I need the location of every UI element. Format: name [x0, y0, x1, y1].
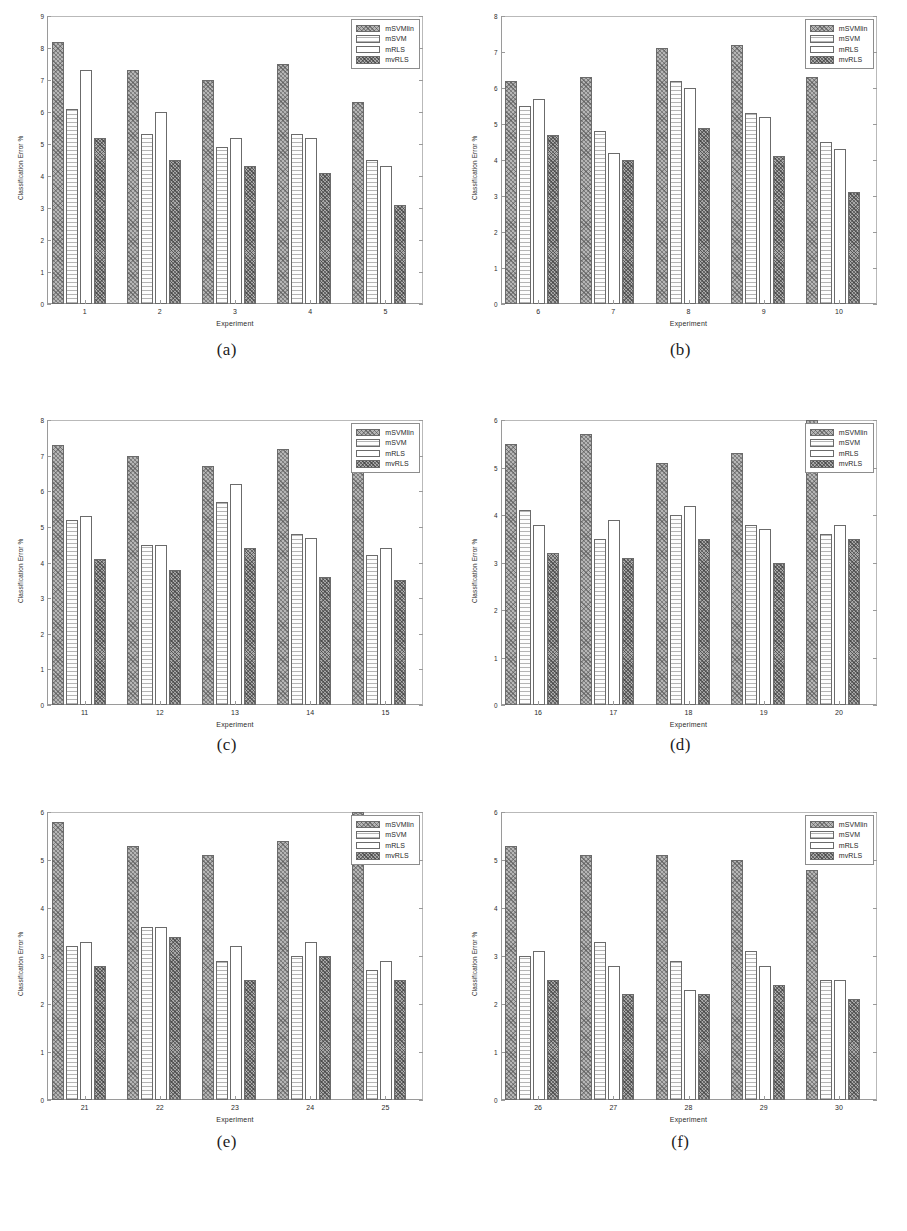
bar-mSVMlin-3: [202, 80, 214, 304]
y-tick-label: 4: [40, 173, 47, 180]
x-tick-label: 16: [534, 709, 542, 716]
y-tick-mark: [47, 598, 51, 599]
y-tick-mark-right: [419, 176, 423, 177]
panel-caption: (b): [454, 340, 907, 360]
bar-mSVM-4: [291, 134, 303, 304]
chart-panel-e: 01234562122232425ExperimentClassificatio…: [0, 800, 454, 1231]
legend-item-mRLS: mRLS: [810, 448, 868, 459]
legend-label: mvRLS: [385, 852, 408, 859]
bar-mSVMlin-18: [656, 463, 668, 705]
legend-swatch-mSVM-icon: [810, 35, 834, 43]
legend-item-mRLS: mRLS: [810, 44, 868, 55]
y-tick-mark-right: [873, 16, 877, 17]
y-tick-mark: [501, 52, 505, 53]
legend-item-mSVMlin: mSVMlin: [356, 427, 414, 438]
bar-mSVM-30: [820, 980, 832, 1100]
legend-item-mRLS: mRLS: [356, 44, 414, 55]
legend-label: mvRLS: [839, 852, 862, 859]
bar-mSVMlin-24: [277, 841, 289, 1100]
y-tick-mark-right: [873, 420, 877, 421]
x-tick-mark: [160, 300, 161, 304]
y-tick-mark-right: [419, 1004, 423, 1005]
bar-mSVM-5: [366, 160, 378, 304]
y-tick-mark: [501, 304, 505, 305]
x-tick-label: 4: [308, 308, 312, 315]
y-tick-mark-right: [873, 956, 877, 957]
panel-caption: (e): [0, 1132, 454, 1152]
y-axis-label: Classification Error %: [471, 136, 478, 200]
chart-panel-c: 0123456781112131415ExperimentClassificat…: [0, 410, 454, 800]
bar-mRLS-30: [834, 980, 846, 1100]
bar-mSVMlin-7: [580, 77, 592, 304]
y-tick-label: 1: [40, 1049, 47, 1056]
bar-mSVMlin-8: [656, 48, 668, 304]
y-tick-mark: [501, 1100, 505, 1101]
legend-label: mRLS: [385, 842, 405, 849]
legend-swatch-mvRLS-icon: [356, 460, 380, 468]
y-tick-mark: [47, 420, 51, 421]
x-tick-mark: [538, 1096, 539, 1100]
legend-item-mSVM: mSVM: [356, 438, 414, 449]
y-tick-mark-right: [873, 610, 877, 611]
y-tick-mark: [501, 232, 505, 233]
y-tick-mark: [501, 705, 505, 706]
x-tick-mark: [538, 300, 539, 304]
x-tick-mark: [385, 300, 386, 304]
chart-panel-f: 01234562627282930ExperimentClassificatio…: [454, 800, 907, 1231]
x-axis-label: Experiment: [501, 320, 877, 327]
y-tick-label: 2: [494, 607, 501, 614]
y-tick-mark: [501, 16, 505, 17]
legend-swatch-mvRLS-icon: [810, 460, 834, 468]
bar-mvRLS-19: [773, 563, 785, 706]
x-tick-mark: [689, 701, 690, 705]
legend-swatch-mSVM-icon: [356, 35, 380, 43]
bar-mRLS-1: [80, 70, 92, 304]
bar-mSVM-25: [366, 970, 378, 1100]
legend: mSVMlinmSVMmRLSmvRLS: [351, 423, 420, 473]
legend-item-mSVM: mSVM: [356, 830, 414, 841]
bar-mvRLS-28: [698, 994, 710, 1100]
bar-mSVM-9: [745, 113, 757, 304]
bar-mSVMlin-16: [505, 444, 517, 705]
bar-mSVM-21: [66, 946, 78, 1100]
y-tick-label: 2: [40, 630, 47, 637]
plot-area: 0123456781112131415ExperimentClassificat…: [47, 420, 423, 705]
bar-mRLS-17: [608, 520, 620, 705]
legend-item-mvRLS: mvRLS: [356, 851, 414, 862]
y-tick-mark: [47, 304, 51, 305]
y-tick-mark-right: [419, 208, 423, 209]
x-tick-mark: [160, 1096, 161, 1100]
bar-mRLS-9: [759, 117, 771, 304]
y-tick-mark: [47, 1052, 51, 1053]
bar-mvRLS-20: [848, 539, 860, 705]
y-tick-label: 3: [40, 205, 47, 212]
y-tick-mark-right: [873, 268, 877, 269]
bar-mvRLS-4: [319, 173, 331, 304]
y-tick-mark: [47, 176, 51, 177]
y-tick-label: 3: [494, 559, 501, 566]
legend-label: mSVMlin: [385, 429, 414, 436]
bar-mvRLS-15: [394, 580, 406, 705]
y-tick-mark: [47, 705, 51, 706]
legend: mSVMlinmSVMmRLSmvRLS: [351, 19, 420, 69]
x-tick-mark: [85, 1096, 86, 1100]
bar-mvRLS-14: [319, 577, 331, 705]
bar-mRLS-15: [380, 548, 392, 705]
bar-mSVMlin-6: [505, 81, 517, 304]
x-tick-label: 2: [158, 308, 162, 315]
x-tick-mark: [839, 701, 840, 705]
legend-label: mRLS: [839, 842, 859, 849]
y-tick-label: 3: [494, 953, 501, 960]
x-tick-mark: [310, 701, 311, 705]
x-tick-label: 6: [536, 308, 540, 315]
legend-label: mvRLS: [839, 56, 862, 63]
legend: mSVMlinmSVMmRLSmvRLS: [805, 19, 874, 69]
y-tick-mark-right: [873, 160, 877, 161]
y-tick-label: 8: [494, 13, 501, 20]
bar-mvRLS-17: [622, 558, 634, 705]
bar-mSVMlin-19: [731, 453, 743, 705]
bar-mRLS-14: [305, 538, 317, 705]
y-tick-mark-right: [873, 304, 877, 305]
legend-swatch-mRLS-icon: [810, 46, 834, 54]
legend-item-mSVM: mSVM: [356, 34, 414, 45]
